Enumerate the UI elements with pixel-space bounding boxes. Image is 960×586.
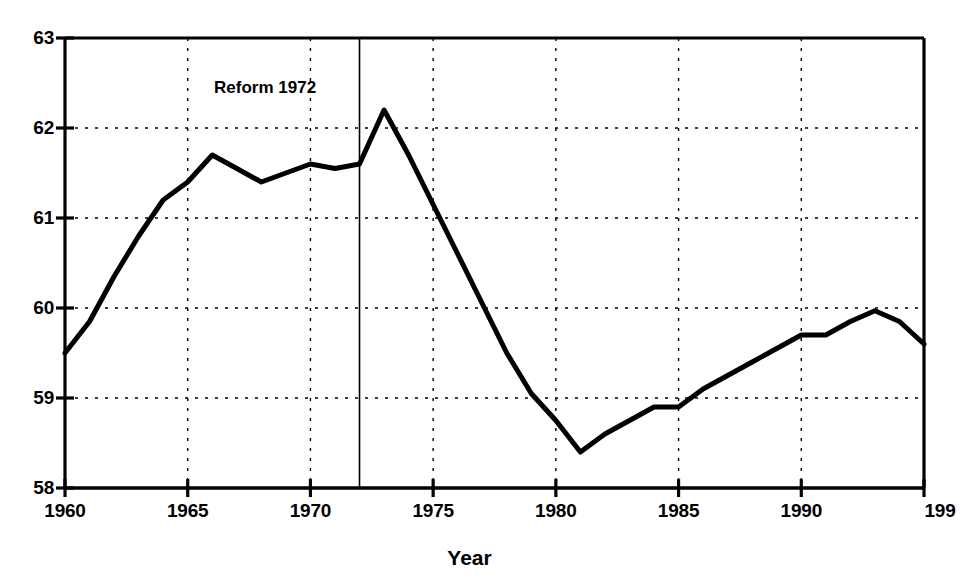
x-axis-title: Year: [0, 546, 939, 570]
y-tick-label-63: 63: [14, 27, 54, 49]
y-tick-label-60: 60: [14, 297, 54, 319]
y-tick-label-59: 59: [14, 387, 54, 409]
x-tick-label-1975: 1975: [388, 500, 478, 522]
x-tick-label-1995: 199: [895, 500, 960, 522]
plot-background: [65, 38, 924, 488]
x-tick-label-1970: 1970: [265, 500, 355, 522]
reform-annotation-label: Reform 1972: [214, 78, 316, 98]
x-tick-label-1960: 1960: [20, 500, 110, 522]
y-tick-label-58: 58: [14, 477, 54, 499]
x-tick-label-1980: 1980: [511, 500, 601, 522]
x-tick-label-1965: 1965: [143, 500, 233, 522]
x-tick-label-1985: 1985: [634, 500, 724, 522]
y-tick-label-62: 62: [14, 117, 54, 139]
x-tick-label-1990: 1990: [756, 500, 846, 522]
y-tick-label-61: 61: [14, 207, 54, 229]
